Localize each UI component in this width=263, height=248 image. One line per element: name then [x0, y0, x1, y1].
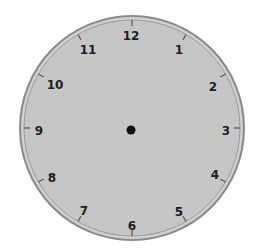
- numeral-11: 11: [80, 43, 97, 57]
- numeral-3: 3: [222, 124, 230, 138]
- center-pivot-dot: [127, 126, 136, 135]
- numeral-5: 5: [175, 205, 183, 219]
- numeral-2: 2: [209, 80, 217, 94]
- numeral-6: 6: [128, 219, 136, 233]
- numeral-4: 4: [211, 168, 219, 182]
- numeral-10: 10: [47, 78, 64, 92]
- numeral-9: 9: [35, 124, 43, 138]
- numeral-7: 7: [80, 204, 88, 218]
- numeral-8: 8: [48, 171, 56, 185]
- clock-face: 12 1 2 3 4 5 6 7 8 9 10 11: [0, 0, 263, 248]
- numeral-1: 1: [175, 43, 183, 57]
- numeral-12: 12: [123, 29, 140, 43]
